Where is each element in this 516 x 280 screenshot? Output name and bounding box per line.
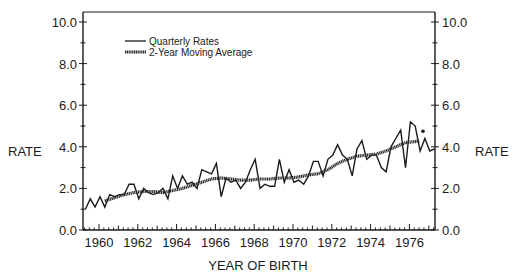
tick-labels: 0.00.02.02.04.04.06.06.08.08.010.010.019… [52,15,468,250]
x-tick-label: 1962 [123,235,152,250]
y-axis-title-left: RATE [8,144,42,159]
y-tick-label-right: 8.0 [442,57,460,72]
x-tick-label: 1960 [85,235,114,250]
x-axis-title: YEAR OF BIRTH [208,258,307,273]
series-line-moving-average [105,141,419,201]
legend: Quarterly Rates 2-Year Moving Average [125,36,253,58]
x-tick-label: 1972 [317,235,346,250]
series-layer [85,122,434,209]
x-tick-label: 1966 [201,235,230,250]
y-tick-label-left: 4.0 [59,140,77,155]
y-tick-label-right: 6.0 [442,98,460,113]
y-tick-label-left: 2.0 [59,181,77,196]
legend-label-moving-average: 2-Year Moving Average [149,47,253,58]
x-tick-label: 1974 [356,235,385,250]
x-tick-label: 1968 [240,235,269,250]
y-tick-label-right: 4.0 [442,140,460,155]
y-tick-label-left: 10.0 [52,15,77,30]
y-axis-title-right: RATE [475,144,509,159]
x-tick-label: 1976 [395,235,424,250]
chart: 0.00.02.02.04.04.06.06.08.08.010.010.019… [0,0,516,280]
series-line-quarterly-rates [85,122,434,209]
y-tick-label-right: 0.0 [442,223,460,238]
axes [83,12,435,230]
y-tick-label-left: 0.0 [59,223,77,238]
y-tick-label-right: 10.0 [442,15,467,30]
y-tick-label-right: 2.0 [442,181,460,196]
x-tick-label: 1964 [162,235,191,250]
y-tick-label-left: 8.0 [59,57,77,72]
x-tick-label: 1970 [279,235,308,250]
y-tick-label-left: 6.0 [59,98,77,113]
annotation-point [421,129,425,133]
legend-label-quarterly: Quarterly Rates [149,36,219,47]
